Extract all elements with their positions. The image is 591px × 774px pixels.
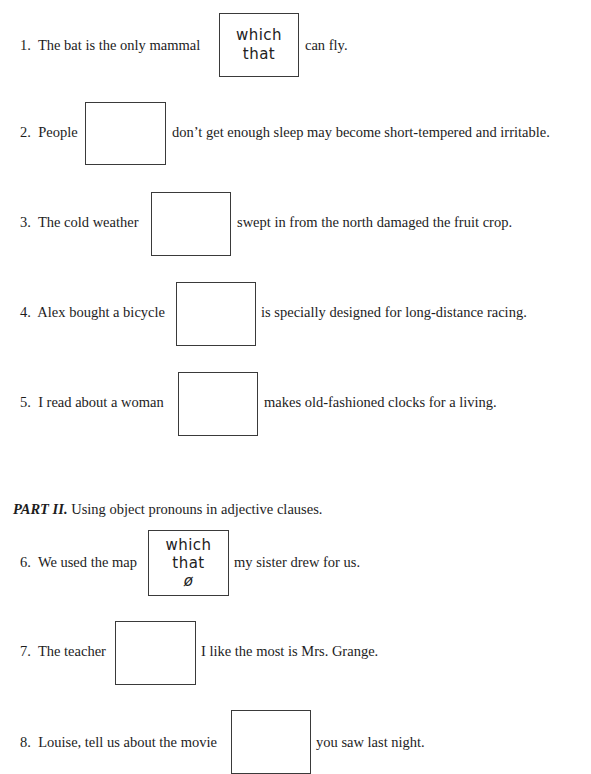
item-1-before: 1. The bat is the only mammal <box>20 37 200 53</box>
item-3-before: 3. The cold weather <box>20 214 139 230</box>
part-2-label: PART II. <box>13 501 68 517</box>
answer-box-5[interactable] <box>178 372 258 436</box>
item-6-after: my sister drew for us. <box>234 554 360 570</box>
item-8-before: 8. Louise, tell us about the movie <box>20 734 217 750</box>
item-1-after: can fly. <box>305 37 348 53</box>
part-2-title: Using object pronouns in adjective claus… <box>71 501 322 517</box>
item-2-before: 2. People <box>20 124 78 140</box>
item-5-before: 5. I read about a woman <box>20 394 164 410</box>
item-7-after: I like the most is Mrs. Grange. <box>201 643 378 659</box>
answer-box-1[interactable]: which that <box>219 13 299 77</box>
answer-box-6[interactable]: which that ø <box>148 530 229 596</box>
handwritten-answer: which <box>236 26 282 45</box>
item-4-after: is specially designed for long-distance … <box>261 304 527 320</box>
part-2-heading: PART II. Using object pronouns in adject… <box>13 501 322 517</box>
item-7-before: 7. The teacher <box>20 643 106 659</box>
item-2-after: don’t get enough sleep may become short-… <box>172 124 550 140</box>
answer-box-7[interactable] <box>115 621 196 685</box>
item-6-before: 6. We used the map <box>20 554 137 570</box>
item-3-after: swept in from the north damaged the frui… <box>237 214 512 230</box>
handwritten-answer: which <box>165 536 211 554</box>
answer-box-3[interactable] <box>151 192 231 256</box>
handwritten-answer: ø <box>184 572 194 590</box>
handwritten-answer: that <box>172 554 204 572</box>
item-5-after: makes old-fashioned clocks for a living. <box>264 394 497 410</box>
handwritten-answer: that <box>243 45 275 64</box>
answer-box-2[interactable] <box>85 102 166 165</box>
item-8-after: you saw last night. <box>316 734 425 750</box>
answer-box-4[interactable] <box>176 282 256 346</box>
item-4-before: 4. Alex bought a bicycle <box>20 304 165 320</box>
answer-box-8[interactable] <box>231 710 311 774</box>
